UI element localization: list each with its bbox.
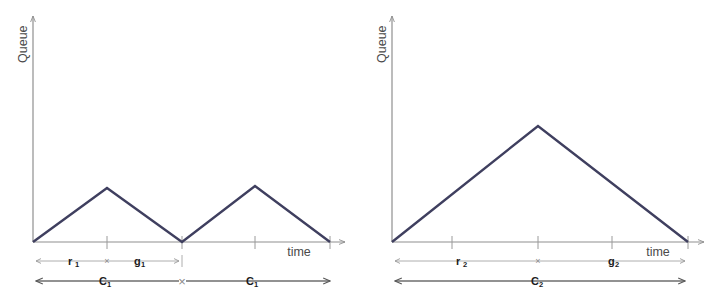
left-c1-second-subscript: 1 xyxy=(254,280,258,289)
left-r1-label: r 1 xyxy=(68,255,79,269)
right-queue-series xyxy=(392,126,688,242)
right-x-axis-label: time xyxy=(646,245,670,259)
right-c2-label: C 2 xyxy=(531,275,543,289)
left-rg-cross-marker: × xyxy=(104,256,109,266)
left-r1-letter: r xyxy=(68,255,73,267)
left-g1-label: g 1 xyxy=(134,255,145,269)
left-panel: Queue time r 1 × g 1 C 1 × xyxy=(16,16,345,289)
right-r2-label: r 2 xyxy=(456,255,467,269)
left-y-axis-label: Queue xyxy=(16,25,30,63)
left-c1-first-letter: C xyxy=(99,275,107,287)
right-rg-cross-marker: × xyxy=(535,256,540,266)
right-r2-letter: r xyxy=(456,255,461,267)
right-g2-subscript: 2 xyxy=(615,260,619,269)
queue-cycle-figure: Queue time r 1 × g 1 C 1 × xyxy=(0,0,712,302)
right-y-axis-label: Queue xyxy=(375,25,389,63)
right-g2-label: g 2 xyxy=(608,255,619,269)
left-queue-series xyxy=(33,186,330,242)
right-c2-letter: C xyxy=(531,275,539,287)
left-r1-subscript: 1 xyxy=(75,260,79,269)
left-g1-letter: g xyxy=(134,255,141,267)
right-g2-letter: g xyxy=(608,255,615,267)
left-x-axis-label: time xyxy=(287,245,311,259)
right-c2-subscript: 2 xyxy=(539,280,543,289)
right-panel: Queue time r 2 × g 2 C 2 xyxy=(375,16,704,289)
left-c1-second-label: C 1 xyxy=(246,275,258,289)
left-c1-cross-marker: × xyxy=(178,274,186,289)
left-g1-subscript: 1 xyxy=(141,260,145,269)
left-c1-first-subscript: 1 xyxy=(107,280,111,289)
left-c1-first-label: C 1 xyxy=(99,275,111,289)
left-c1-second-letter: C xyxy=(246,275,254,287)
right-r2-subscript: 2 xyxy=(463,260,467,269)
